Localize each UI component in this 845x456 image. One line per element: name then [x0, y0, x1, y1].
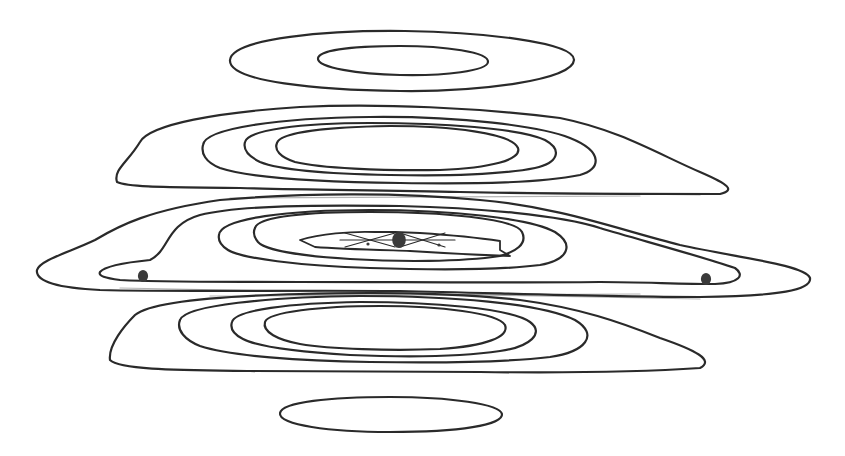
small-dot-icon-1	[437, 243, 440, 246]
contour-diagram	[0, 0, 845, 456]
contour-plot-canvas	[0, 0, 845, 456]
center-marker-icon	[392, 232, 406, 248]
left-marker-icon	[138, 270, 148, 282]
small-dot-icon-0	[366, 242, 369, 245]
right-marker-icon	[701, 273, 711, 285]
plot-background	[0, 0, 845, 456]
